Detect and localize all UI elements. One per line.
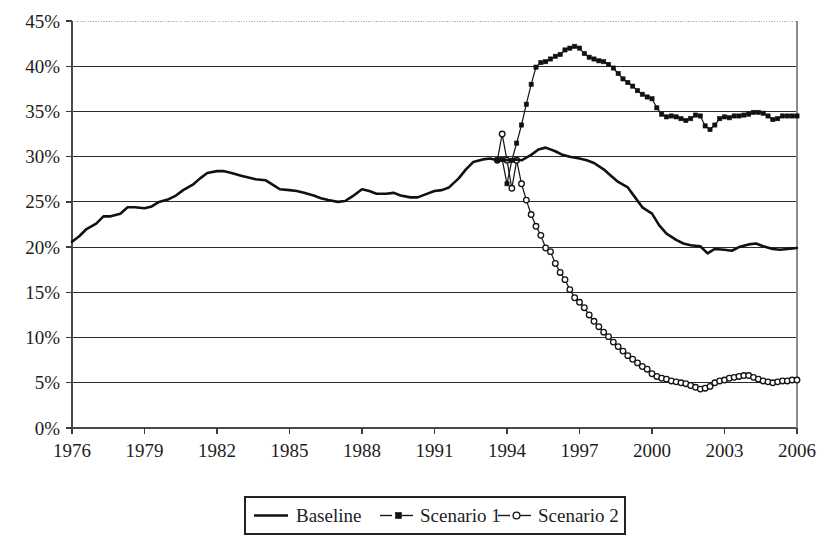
legend-label: Baseline bbox=[296, 505, 361, 526]
data-point-marker bbox=[645, 95, 649, 99]
data-point-marker bbox=[616, 71, 620, 75]
y-tick-label: 0% bbox=[35, 418, 61, 439]
data-point-marker bbox=[528, 212, 534, 218]
gridlines bbox=[72, 21, 797, 428]
data-point-marker bbox=[761, 111, 765, 115]
data-point-marker bbox=[776, 117, 780, 121]
data-point-marker bbox=[615, 344, 621, 350]
x-tick-label: 1988 bbox=[343, 440, 381, 461]
chart-container: 45%40%35%30%25%20%15%10%5%0% 19761979198… bbox=[0, 0, 824, 543]
series-line bbox=[497, 46, 797, 183]
data-point-marker bbox=[660, 112, 664, 116]
data-point-marker bbox=[539, 61, 543, 65]
data-point-marker bbox=[597, 59, 601, 63]
data-point-marker bbox=[602, 60, 606, 64]
data-point-marker bbox=[563, 48, 567, 52]
data-point-marker bbox=[708, 127, 712, 131]
data-point-marker bbox=[577, 46, 581, 50]
data-point-marker bbox=[606, 334, 612, 340]
line-chart: 45%40%35%30%25%20%15%10%5%0% 19761979198… bbox=[0, 0, 824, 543]
data-point-marker bbox=[529, 82, 533, 86]
data-point-marker bbox=[669, 114, 673, 118]
y-tick-labels: 45%40%35%30%25%20%15%10%5%0% bbox=[25, 11, 60, 439]
y-tick-label: 45% bbox=[25, 11, 60, 32]
data-point-marker bbox=[713, 123, 717, 127]
data-point-marker bbox=[596, 324, 602, 330]
data-point-marker bbox=[684, 118, 688, 122]
y-axis bbox=[66, 21, 72, 428]
y-tick-label: 10% bbox=[25, 327, 60, 348]
data-point-marker bbox=[747, 112, 751, 116]
data-point-marker bbox=[679, 117, 683, 121]
data-point-marker bbox=[718, 117, 722, 121]
x-tick-label: 1985 bbox=[271, 440, 309, 461]
data-point-marker bbox=[655, 106, 659, 110]
chart-legend: BaselineScenario 1Scenario 2 bbox=[245, 497, 625, 534]
data-point-marker bbox=[790, 114, 794, 118]
data-point-marker bbox=[698, 114, 702, 118]
data-point-marker bbox=[544, 60, 548, 64]
data-point-marker bbox=[582, 51, 586, 55]
data-point-marker bbox=[650, 97, 654, 101]
legend-label: Scenario 1 bbox=[420, 505, 501, 526]
x-tick-label: 1976 bbox=[53, 440, 91, 461]
data-point-marker bbox=[553, 261, 559, 267]
data-point-marker bbox=[572, 295, 578, 301]
data-point-marker bbox=[732, 114, 736, 118]
data-point-marker bbox=[509, 186, 515, 192]
data-point-marker bbox=[568, 46, 572, 50]
data-point-marker bbox=[737, 114, 741, 118]
y-tick-label: 40% bbox=[25, 56, 60, 77]
legend-marker bbox=[513, 512, 520, 519]
y-tick-label: 5% bbox=[35, 372, 61, 393]
data-point-marker bbox=[558, 52, 562, 56]
data-point-marker bbox=[674, 115, 678, 119]
data-point-marker bbox=[591, 318, 597, 324]
data-point-marker bbox=[780, 114, 784, 118]
data-point-marker bbox=[722, 115, 726, 119]
data-point-marker bbox=[785, 114, 789, 118]
data-point-marker bbox=[771, 117, 775, 121]
data-point-marker bbox=[548, 249, 554, 255]
data-point-marker bbox=[592, 57, 596, 61]
data-point-marker bbox=[794, 377, 800, 383]
data-point-marker bbox=[693, 113, 697, 117]
series-line bbox=[72, 148, 797, 254]
data-point-marker bbox=[499, 131, 505, 137]
data-point-marker bbox=[601, 329, 607, 335]
data-point-marker bbox=[664, 115, 668, 119]
x-tick-label: 1982 bbox=[198, 440, 236, 461]
data-point-marker bbox=[635, 89, 639, 93]
x-axis bbox=[72, 21, 797, 434]
y-tick-label: 15% bbox=[25, 282, 60, 303]
data-point-marker bbox=[557, 270, 563, 276]
data-point-marker bbox=[553, 54, 557, 58]
legend-label: Scenario 2 bbox=[538, 505, 619, 526]
x-tick-label: 1994 bbox=[488, 440, 527, 461]
y-tick-label: 20% bbox=[25, 237, 60, 258]
y-tick-label: 30% bbox=[25, 146, 60, 167]
data-point-marker bbox=[742, 113, 746, 117]
legend-marker bbox=[396, 513, 402, 519]
data-point-marker bbox=[795, 114, 799, 118]
data-point-marker bbox=[519, 181, 525, 187]
data-point-marker bbox=[519, 123, 523, 127]
data-point-marker bbox=[573, 44, 577, 48]
data-point-marker bbox=[703, 124, 707, 128]
y-tick-label: 25% bbox=[25, 191, 60, 212]
data-point-marker bbox=[538, 233, 544, 239]
data-point-marker bbox=[756, 110, 760, 114]
x-tick-label: 1991 bbox=[416, 440, 454, 461]
x-tick-label: 2003 bbox=[706, 440, 744, 461]
data-point-marker bbox=[751, 110, 755, 114]
data-point-marker bbox=[631, 84, 635, 88]
data-point-marker bbox=[644, 366, 650, 372]
data-point-marker bbox=[586, 312, 592, 318]
data-point-marker bbox=[689, 117, 693, 121]
data-point-marker bbox=[626, 80, 630, 84]
data-point-marker bbox=[587, 55, 591, 59]
x-tick-labels: 1976197919821985198819911994199720002003… bbox=[53, 440, 816, 461]
data-point-marker bbox=[548, 57, 552, 61]
data-point-marker bbox=[505, 182, 509, 186]
x-tick-label: 2000 bbox=[633, 440, 671, 461]
